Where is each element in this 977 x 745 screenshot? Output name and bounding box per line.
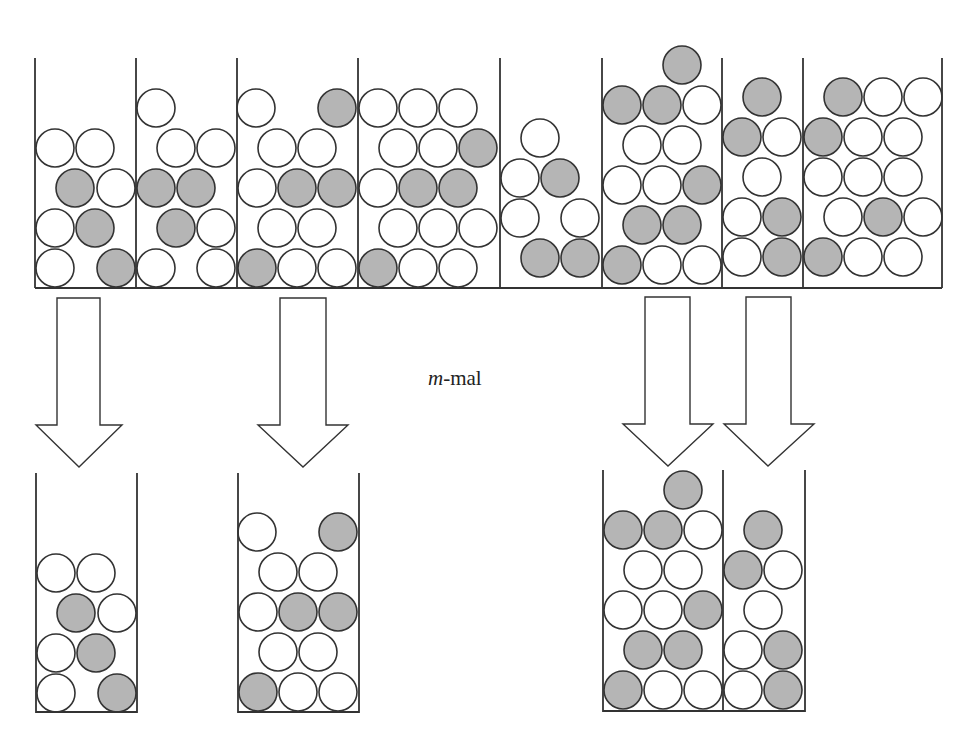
gray-ball [604,671,642,709]
gray-ball [76,209,114,247]
gray-ball [603,246,641,284]
white-ball [379,209,417,247]
label-italic-m: m [428,366,443,390]
gray-ball [137,169,175,207]
white-ball [804,158,842,196]
white-ball [459,209,497,247]
gray-ball [319,593,357,631]
gray-ball [804,118,842,156]
gray-ball [644,511,682,549]
white-ball [97,169,135,207]
white-ball [137,249,175,287]
white-ball [419,129,457,167]
white-ball [683,86,721,124]
gray-ball [238,249,276,287]
white-ball [36,209,74,247]
white-ball [239,593,277,631]
top-container-7 [723,78,801,276]
top-container-3 [237,89,356,287]
white-ball [399,89,437,127]
white-ball [521,119,559,157]
white-ball [238,169,276,207]
white-ball [904,78,942,116]
white-ball [844,158,882,196]
top-container-5 [501,119,599,277]
white-ball [318,249,356,287]
white-ball [743,158,781,196]
white-ball [259,553,297,591]
gray-ball [278,169,316,207]
white-ball [663,126,701,164]
white-ball [763,118,801,156]
top-container-1 [36,129,135,287]
gray-ball [318,169,356,207]
bottom-container-b1 [36,473,137,712]
white-ball [723,238,761,276]
white-ball [684,671,722,709]
white-ball [604,591,642,629]
white-ball [279,673,317,711]
white-ball [278,249,316,287]
white-ball [844,238,882,276]
gray-ball [864,198,902,236]
down-arrow-icon [724,297,814,466]
gray-ball [318,89,356,127]
white-ball [561,199,599,237]
gray-ball [624,631,662,669]
gray-ball [744,511,782,549]
gray-ball [56,169,94,207]
gray-ball [521,239,559,277]
white-ball [298,209,336,247]
gray-ball [684,591,722,629]
white-ball [501,199,539,237]
down-arrow-icon [623,297,713,466]
gray-ball [77,634,115,672]
white-ball [197,129,235,167]
label-rest: -mal [443,366,481,390]
gray-ball [157,209,195,247]
top-container-8 [804,78,942,276]
white-ball [237,89,275,127]
white-ball [37,554,75,592]
gray-ball [561,239,599,277]
white-ball [603,166,641,204]
gray-ball [359,249,397,287]
white-ball [824,198,862,236]
white-ball [359,169,397,207]
gray-ball [439,169,477,207]
gray-ball [643,86,681,124]
white-ball [36,129,74,167]
white-ball [77,554,115,592]
gray-ball [603,86,641,124]
white-ball [319,673,357,711]
gray-ball [97,249,135,287]
top-container-4 [359,89,497,287]
down-arrow-icon [258,298,348,467]
white-ball [258,129,296,167]
white-ball [683,246,721,284]
white-ball [399,249,437,287]
white-ball [157,129,195,167]
white-ball [197,209,235,247]
white-ball [623,126,661,164]
gray-ball [683,166,721,204]
white-ball [299,633,337,671]
gray-ball [57,594,95,632]
gray-ball [804,238,842,276]
gray-ball [723,118,761,156]
white-ball [764,551,802,589]
white-ball [299,553,337,591]
white-ball [98,594,136,632]
white-ball [844,118,882,156]
white-ball [884,118,922,156]
gray-ball [763,198,801,236]
white-ball [644,671,682,709]
white-ball [501,159,539,197]
white-ball [744,591,782,629]
white-ball [439,89,477,127]
top-container-row [35,46,942,288]
bottom-container-row [36,470,805,712]
top-container-2 [137,89,235,287]
gray-ball [239,673,277,711]
white-ball [664,551,702,589]
